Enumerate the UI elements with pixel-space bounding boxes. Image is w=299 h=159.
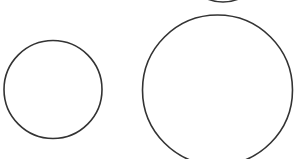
large-circle — [143, 15, 293, 159]
small-circle — [4, 41, 102, 139]
diagram-canvas — [0, 0, 299, 159]
top-partial-circle — [183, 0, 263, 2]
